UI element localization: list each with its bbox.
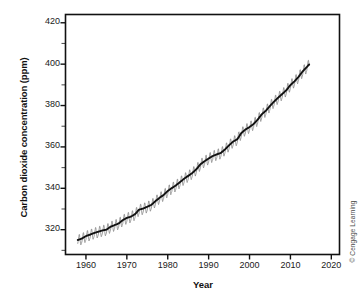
x-tick-label: 2000 bbox=[230, 260, 270, 270]
x-tick-label: 1990 bbox=[189, 260, 229, 270]
publisher-credit: © Cengage Learning bbox=[349, 182, 356, 282]
y-tick-label: 420 bbox=[26, 16, 60, 26]
y-axis-tick-labels: 320340360380400420 bbox=[22, 0, 60, 303]
y-tick-label: 380 bbox=[26, 99, 60, 109]
x-tick-label: 2020 bbox=[311, 260, 351, 270]
axis-ticks bbox=[61, 23, 332, 260]
y-tick-label: 320 bbox=[26, 223, 60, 233]
x-axis-title: Year bbox=[65, 279, 341, 290]
x-tick-label: 2010 bbox=[270, 260, 310, 270]
x-axis-tick-labels: 1960197019801990200020102020 bbox=[0, 260, 363, 276]
y-tick-label: 400 bbox=[26, 58, 60, 68]
x-tick-label: 1980 bbox=[148, 260, 188, 270]
co2-trend-line bbox=[78, 64, 309, 240]
seasonal-oscillation-line bbox=[78, 60, 309, 245]
data-series bbox=[78, 60, 309, 245]
x-tick-label: 1960 bbox=[66, 260, 106, 270]
co2-chart-figure: Carbon dioxide concentration (ppm) Year … bbox=[0, 0, 363, 303]
plot-frame bbox=[66, 15, 340, 255]
y-tick-label: 340 bbox=[26, 182, 60, 192]
y-tick-label: 360 bbox=[26, 140, 60, 150]
x-tick-label: 1970 bbox=[107, 260, 147, 270]
